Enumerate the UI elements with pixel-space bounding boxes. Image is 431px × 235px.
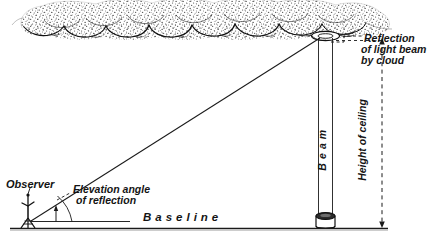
elevation-angle-pointer: [57, 193, 70, 200]
observer-label: Observer: [6, 178, 55, 190]
elevation-pointer-stroke: [57, 193, 70, 200]
base-line-label: B a s e l i n e: [143, 211, 219, 223]
elevation-angle-arc: [54, 196, 72, 222]
ceiling-measurement-diagram: Observer Elevation angle of reflection B…: [0, 0, 431, 235]
elevation-angle-label-line2: of reflection: [76, 194, 136, 206]
reflection-label-line3: by cloud: [361, 54, 405, 66]
ceiling-light-projector: [316, 213, 335, 229]
height-of-ceiling-label: Height of ceiling: [356, 99, 368, 181]
observer-leg-left: [21, 218, 28, 228]
observer-figure: [21, 188, 35, 228]
light-beam-column: [319, 38, 333, 216]
height-arrow-down: [379, 222, 385, 229]
projector-aperture-highlight: [320, 214, 330, 217]
diagram-canvas: Observer Elevation angle of reflection B…: [0, 0, 431, 235]
base-line: [10, 229, 388, 231]
cloud-layer: [10, 0, 410, 46]
beam-label: B e a m: [316, 129, 328, 171]
reflection-ellipse: [312, 31, 340, 40]
